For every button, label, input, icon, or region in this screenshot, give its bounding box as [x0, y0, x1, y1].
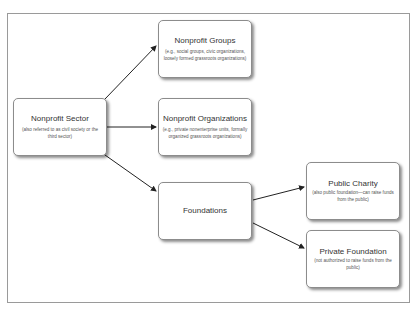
node-subtitle: (e.g., social groups, civic organization… — [162, 49, 248, 62]
node-private-foundation: Private Foundation (not authorized to ra… — [306, 230, 400, 288]
node-nonprofit-organizations: Nonprofit Organizations (e.g., private n… — [158, 98, 252, 156]
node-title: Private Foundation — [319, 247, 386, 257]
node-subtitle: (also referred to as civil society or th… — [17, 127, 103, 140]
node-title: Nonprofit Groups — [175, 36, 236, 46]
node-title: Public Charity — [328, 179, 377, 189]
node-nonprofit-groups: Nonprofit Groups (e.g., social groups, c… — [158, 20, 252, 78]
node-subtitle: (e.g., private nonenterprise units, form… — [162, 127, 248, 140]
node-nonprofit-sector: Nonprofit Sector (also referred to as ci… — [13, 98, 107, 156]
node-subtitle: (not authorized to raise funds from the … — [310, 258, 396, 271]
node-subtitle: (also public foundation—can raise funds … — [310, 190, 396, 203]
node-title: Nonprofit Sector — [31, 114, 89, 124]
arrow-sector-to-groups — [105, 46, 156, 99]
node-foundations: Foundations — [158, 182, 252, 240]
node-title: Foundations — [183, 206, 227, 216]
arrow-foundations-to-private — [253, 223, 304, 248]
arrow-foundations-to-charity — [253, 187, 304, 200]
arrow-sector-to-foundations — [105, 155, 156, 191]
node-title: Nonprofit Organizations — [163, 114, 247, 124]
node-public-charity: Public Charity (also public foundation—c… — [306, 162, 400, 220]
